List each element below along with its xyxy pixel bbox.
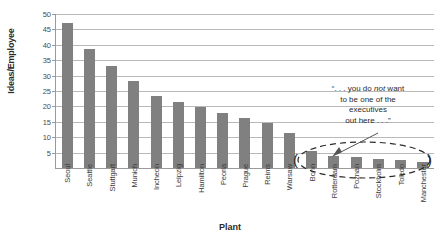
bar-group: Peoria: [212, 14, 234, 168]
y-tick-label: 20: [43, 102, 51, 111]
x-tick-label: Manchester: [418, 164, 427, 202]
x-tick-label: Incheon: [152, 164, 161, 190]
x-tick-label: Stockholm: [374, 164, 383, 198]
bar: [173, 102, 184, 168]
highlight-left-paren: (: [293, 152, 298, 167]
bar: [217, 113, 228, 168]
bar: [106, 66, 117, 168]
x-tick-label: Toledo: [396, 164, 405, 186]
x-tick-label: Leipzig: [174, 164, 183, 187]
y-tick-label: 15: [43, 117, 51, 126]
bar-group: Reims: [256, 14, 278, 168]
bar: [239, 118, 250, 168]
y-tick-label: 40: [43, 40, 51, 49]
annotation-text: “. . . you do not want to be one of the …: [306, 84, 430, 126]
bar-group: Munich: [123, 14, 145, 168]
annotation-emphasis: not: [374, 84, 385, 93]
bar: [62, 23, 73, 168]
annotation-line-1b: want: [385, 84, 404, 93]
x-tick-label: Stuttgart: [107, 164, 116, 191]
y-tick-label: 30: [43, 71, 51, 80]
highlight-right-paren: ): [427, 152, 432, 167]
x-tick-label: Munich: [129, 164, 138, 188]
bar-group: Seoul: [56, 14, 78, 168]
y-tick-label: 5: [47, 148, 51, 157]
x-tick-label: Seoul: [63, 164, 72, 183]
y-axis-title: Ideas/Employee: [6, 6, 16, 116]
x-tick-label: Bonn: [307, 164, 316, 181]
y-tick-label: 45: [43, 25, 51, 34]
bar-chart: Ideas/Employee 5101520253035404550 Seoul…: [0, 0, 436, 239]
bar: [151, 96, 162, 168]
bar-group: Warsaw: [278, 14, 300, 168]
bar: [128, 81, 139, 168]
bar-group: Seattle: [78, 14, 100, 168]
x-tick-label: Rotterdam: [329, 164, 338, 198]
x-tick-label: Prague: [240, 164, 249, 188]
y-tick-label: 50: [43, 10, 51, 19]
annotation-line-1a: “. . . you do: [332, 84, 374, 93]
bar-group: Hamilton: [189, 14, 211, 168]
bar: [84, 49, 95, 168]
x-tick-label: Seattle: [85, 164, 94, 187]
bar-group: Leipzig: [167, 14, 189, 168]
x-tick-label: Poznan: [352, 164, 361, 189]
bar: [262, 123, 273, 168]
annotation-line-4: out here . . .”: [345, 116, 390, 125]
annotation-line-2: to be one of the: [340, 95, 396, 104]
y-tick-label: 35: [43, 56, 51, 65]
y-tick-label: 25: [43, 87, 51, 96]
bar-group: Incheon: [145, 14, 167, 168]
bar: [195, 107, 206, 168]
bar-group: Prague: [234, 14, 256, 168]
x-axis-title: Plant: [0, 222, 436, 232]
annotation-line-3: executives: [349, 105, 387, 114]
x-tick-label: Peoria: [218, 164, 227, 185]
y-tick-label: 10: [43, 133, 51, 142]
x-tick-label: Hamilton: [196, 164, 205, 193]
bar-group: Stuttgart: [100, 14, 122, 168]
x-tick-label: Reims: [263, 164, 272, 185]
